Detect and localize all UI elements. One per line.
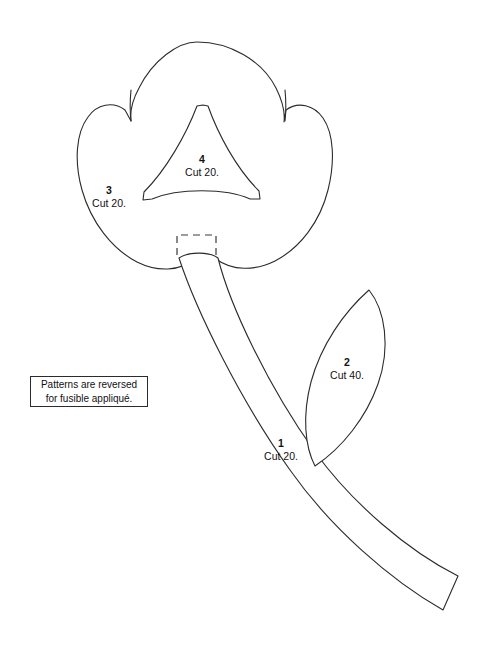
piece-label-2: 2 Cut 40. (315, 356, 379, 382)
piece-label-3: 3 Cut 20. (77, 184, 141, 210)
pattern-page: 3 Cut 20. 4 Cut 20. 2 Cut 40. 1 Cut 20. … (0, 0, 485, 650)
piece-number-3: 3 (77, 184, 141, 197)
instruction-note-box: Patterns are reversed for fusible appliq… (30, 376, 148, 407)
flower-notch-left (130, 90, 131, 121)
flower-notch-right (285, 90, 286, 121)
piece-cut-4: Cut 20. (170, 166, 234, 179)
piece-number-1: 1 (249, 437, 313, 450)
piece-number-4: 4 (170, 153, 234, 166)
piece-cut-1: Cut 20. (249, 450, 313, 463)
piece-cut-3: Cut 20. (77, 197, 141, 210)
pattern-drawing (0, 0, 485, 650)
piece-cut-2: Cut 40. (315, 369, 379, 382)
note-line-2: for fusible appliqué. (46, 392, 133, 406)
piece-number-2: 2 (315, 356, 379, 369)
piece-label-4: 4 Cut 20. (170, 153, 234, 179)
note-line-1: Patterns are reversed (41, 378, 137, 392)
piece-label-1: 1 Cut 20. (249, 437, 313, 463)
